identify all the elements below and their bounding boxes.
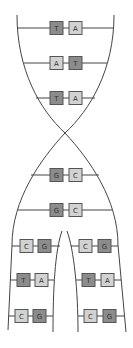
base-pair: GC <box>31 169 99 182</box>
nucleotide-label: A <box>54 60 59 68</box>
nucleotide-label: C <box>73 207 78 215</box>
nucleotide-label: T <box>72 60 78 68</box>
nucleotide-label: T <box>53 25 59 33</box>
nucleotide-label: C <box>83 243 88 251</box>
nucleotide-label: A <box>105 277 110 285</box>
base-pair: CG <box>71 240 118 253</box>
nucleotide-label: T <box>53 95 59 103</box>
nucleotide-label: T <box>85 277 91 285</box>
nucleotide-label: G <box>42 243 47 251</box>
dna-diagram: TAATTAGCGCCGTACGCGTACG <box>0 0 133 348</box>
nucleotide-label: A <box>73 95 78 103</box>
base-pair: CG <box>9 310 53 323</box>
base-pair: TA <box>17 22 114 35</box>
nucleotide-label: C <box>88 313 93 321</box>
nucleotide-label: C <box>73 172 78 180</box>
nucleotide-label: G <box>37 313 42 321</box>
base-pair: TA <box>76 274 121 287</box>
nucleotide-label: A <box>73 25 78 33</box>
base-pair: CG <box>78 310 124 323</box>
nucleotide-label: C <box>19 313 24 321</box>
nucleotide-label: G <box>102 243 107 251</box>
nucleotide-label: C <box>24 243 29 251</box>
nucleotide-label: T <box>20 277 26 285</box>
base-pair: TA <box>36 92 95 105</box>
base-pair: TA <box>11 274 54 287</box>
base-pair: CG <box>12 240 60 253</box>
nucleotide-label: A <box>39 277 44 285</box>
base-pair: GC <box>18 204 112 217</box>
lower-right-strand <box>65 133 126 332</box>
nucleotide-label: G <box>54 207 59 215</box>
lower-left-strand <box>8 133 65 330</box>
nucleotide-label: G <box>54 172 59 180</box>
nucleotide-label: G <box>107 313 112 321</box>
base-pair: AT <box>24 57 107 70</box>
